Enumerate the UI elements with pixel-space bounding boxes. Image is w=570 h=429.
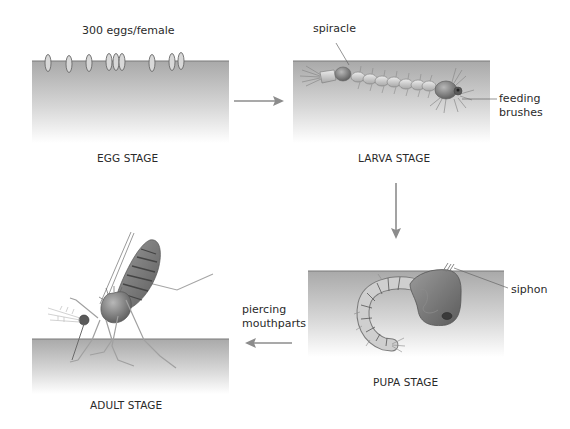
spiracle-label: spiracle — [313, 22, 356, 35]
egg-stage-panel — [32, 53, 229, 144]
adult-stage-panel — [32, 232, 229, 394]
feeding-brushes-label-line1: feeding — [499, 92, 540, 105]
arrow-down-icon — [391, 183, 401, 239]
egg-count-label: 300 eggs/female — [82, 24, 175, 37]
life-cycle-artwork — [0, 0, 570, 429]
water-region — [32, 339, 229, 394]
water-region — [32, 61, 229, 143]
adult-stage-label: ADULT STAGE — [90, 399, 162, 411]
siphon-label: siphon — [511, 283, 547, 296]
larva-stage-panel — [293, 43, 497, 143]
arrow-right-icon — [234, 96, 284, 106]
pupa-stage-label: PUPA STAGE — [373, 376, 438, 388]
larva-stage-label: LARVA STAGE — [358, 152, 430, 164]
arrow-left-icon — [245, 338, 292, 348]
piercing-mouthparts-label-line2: mouthparts — [242, 317, 306, 330]
pupa-stage-panel — [308, 263, 508, 357]
egg-stage-label: EGG STAGE — [97, 152, 158, 164]
feeding-brushes-label-line2: brushes — [499, 106, 543, 119]
piercing-mouthparts-label-line1: piercing — [242, 303, 286, 316]
